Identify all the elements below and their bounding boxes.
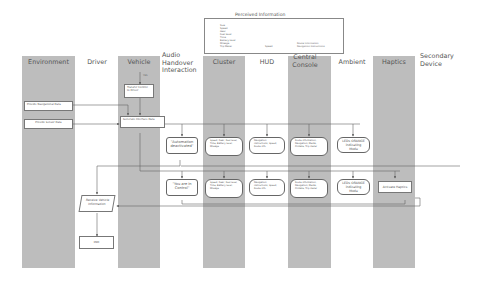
audio-you-are-in-control[interactable]: "You are in Control" — [166, 179, 198, 196]
cluster-display-1[interactable]: Speed, Gear, Fuel level, Time, Battery l… — [205, 137, 243, 156]
console-display-1[interactable]: Route information, Navigation, Media, Cl… — [290, 137, 328, 156]
ambient-leds-1[interactable]: LEDs ORANGE indicating Mode — [337, 137, 370, 153]
hud-display-2[interactable]: Navigation instructions, Speed, Route in… — [249, 179, 285, 196]
activate-haptics-box[interactable]: Activate Haptics — [378, 181, 412, 193]
cluster-display-2[interactable]: Speed, Gear, Fuel level, Time, Battery l… — [205, 179, 243, 198]
yes-label: YES — [143, 74, 148, 77]
console-display-2[interactable]: Route information, Navigation, Media, Cl… — [290, 179, 328, 198]
provide-sensor-data-box[interactable]: Provide Sensor Data — [24, 119, 73, 129]
provide-navigational-data-box[interactable]: Provide Navigational Data — [24, 101, 73, 111]
audio-automation-deactivated[interactable]: "Automation deactivated" — [166, 137, 198, 154]
ambient-leds-2[interactable]: LEDs ORANGE indicating Mode — [337, 179, 370, 195]
end-box[interactable]: END — [79, 236, 114, 249]
generate-interface-data-box[interactable]: Generate Interface Data — [120, 116, 165, 128]
transfer-control-box[interactable]: Transfer Control to Driver — [124, 84, 154, 98]
receive-vehicle-information[interactable]: Receive Vehicle Information — [79, 195, 116, 212]
hud-display-1[interactable]: Navigation instructions, Speed, Route in… — [249, 137, 285, 154]
